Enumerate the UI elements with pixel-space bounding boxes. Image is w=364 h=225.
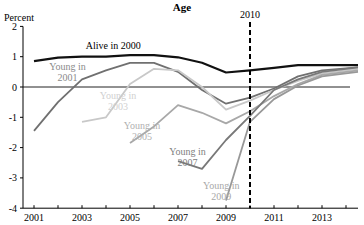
y-tick-label: 1: [12, 51, 17, 62]
x-tick-label: 2009: [216, 212, 236, 223]
series-line-young-in-2001: [34, 63, 358, 131]
x-tick-label: 2003: [72, 212, 92, 223]
series-annotation-label: Young in: [49, 61, 86, 72]
line-chart: AgePercent2010210-1-2-3-4200120032005200…: [0, 0, 364, 225]
y-tick-label: -4: [9, 203, 17, 214]
x-tick-label: 2001: [24, 212, 44, 223]
y-tick-label: 0: [12, 82, 17, 93]
series-annotation-label: Alive in 2000: [86, 40, 141, 51]
chart-canvas: AgePercent2010210-1-2-3-4200120032005200…: [0, 0, 364, 225]
y-tick-label: 2: [12, 21, 17, 32]
series-line-young-in-2005: [130, 70, 358, 143]
series-annotation-label: 2003: [108, 101, 128, 112]
series-annotation-label: Young in: [203, 180, 240, 191]
series-annotation-label: Young in: [100, 90, 137, 101]
y-tick-label: -1: [9, 112, 17, 123]
series-annotation-label: Young in: [124, 120, 161, 131]
y-tick-label: -2: [9, 142, 17, 153]
x-tick-label: 2011: [264, 212, 284, 223]
series-annotation-label: 2009: [211, 191, 231, 202]
series-line-young-in-2009: [226, 72, 358, 201]
y-tick-label: -3: [9, 172, 17, 183]
x-tick-label: 2005: [120, 212, 140, 223]
x-tick-label: 2007: [168, 212, 188, 223]
series-annotation-label: Young in: [169, 146, 206, 157]
x-tick-label: 2013: [312, 212, 332, 223]
reference-line-label: 2010: [240, 9, 260, 20]
series-annotation-label: 2007: [178, 157, 198, 168]
chart-title: Age: [173, 1, 191, 13]
series-annotation-label: 2001: [58, 72, 78, 83]
series-annotation-label: 2005: [132, 131, 152, 142]
y-axis-label: Percent: [4, 12, 34, 23]
